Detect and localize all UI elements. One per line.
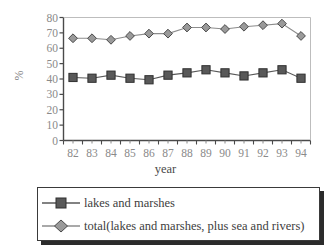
data-series-layer [69,19,306,84]
x-axis-tick-labels: 82838485868788899091929394 [0,146,331,162]
data-point-marker [145,29,154,38]
data-point-marker [240,22,249,31]
data-point-marker [107,71,115,79]
data-point-marker [202,23,211,32]
data-point-marker [126,74,134,82]
data-point-marker [259,21,268,30]
data-point-marker [88,34,97,43]
data-point-marker [183,69,191,77]
data-point-marker [107,35,116,44]
diamond-marker-icon [38,216,84,236]
data-point-marker [183,23,192,32]
x-tick-label: 94 [289,146,313,160]
x-axis-title: year [0,162,331,177]
chart-figure: % 01020304050607080 82838485868788899091… [0,0,331,251]
data-point-marker [278,19,287,28]
legend-label: lakes and marshes [84,196,175,210]
legend-item-total[interactable]: total(lakes and marshes, plus sea and ri… [38,214,319,238]
data-point-marker [145,76,153,84]
axis-lines [64,18,311,141]
data-point-marker [240,72,248,80]
data-point-marker [88,74,96,82]
data-point-marker [164,29,173,38]
data-point-marker [221,25,230,34]
data-point-marker [297,74,305,82]
data-point-marker [126,32,135,41]
data-point-marker [69,34,78,43]
data-point-marker [221,69,229,77]
plot-area: % 01020304050607080 82838485868788899091… [0,0,331,185]
data-point-marker [278,66,286,74]
chart-legend: lakes and marshes total(lakes and marshe… [37,187,320,241]
square-marker-icon [38,193,84,213]
data-point-marker [259,69,267,77]
legend-item-lakes-and-marshes[interactable]: lakes and marshes [38,191,319,215]
data-point-marker [69,73,77,81]
data-point-marker [164,71,172,79]
data-point-marker [202,66,210,74]
data-point-marker [297,32,306,41]
legend-label: total(lakes and marshes, plus sea and ri… [84,219,304,233]
